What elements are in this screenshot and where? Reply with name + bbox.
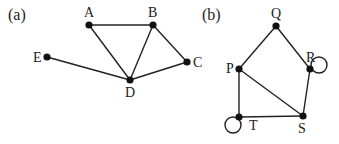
edge-q-p [239, 26, 276, 69]
panel-label-a: (a) [8, 6, 26, 24]
node-q [272, 22, 279, 29]
edge-q-r [276, 26, 310, 69]
node-e [43, 53, 50, 60]
edge-a-d [89, 25, 130, 80]
node-label-d: D [125, 85, 135, 100]
edge-b-c [153, 25, 187, 62]
node-label-q: Q [271, 6, 281, 21]
node-s [299, 112, 306, 119]
graph-a: (a)ABCDE [8, 5, 202, 100]
edge-p-s [239, 69, 303, 116]
node-p [235, 65, 242, 72]
panel-label-b: (b) [202, 6, 221, 24]
node-label-c: C [193, 55, 202, 70]
node-b [149, 21, 156, 28]
edge-t-s [239, 116, 303, 117]
edge-b-d [130, 25, 153, 80]
graph-b: (b)QRSTP [202, 6, 327, 136]
node-c [183, 58, 190, 65]
graph-diagram: (a)ABCDE (b)QRSTP [0, 0, 339, 144]
node-label-r: R [306, 50, 316, 65]
node-label-t: T [249, 118, 258, 133]
node-label-b: B [148, 5, 157, 20]
edge-c-d [130, 62, 187, 80]
node-a [85, 21, 92, 28]
node-label-e: E [33, 50, 42, 65]
edge-e-d [47, 57, 130, 80]
node-d [126, 76, 133, 83]
node-t [235, 113, 242, 120]
node-label-p: P [226, 61, 234, 76]
node-label-s: S [298, 121, 306, 136]
node-label-a: A [84, 5, 95, 20]
node-r [306, 65, 313, 72]
edge-r-s [303, 69, 310, 116]
